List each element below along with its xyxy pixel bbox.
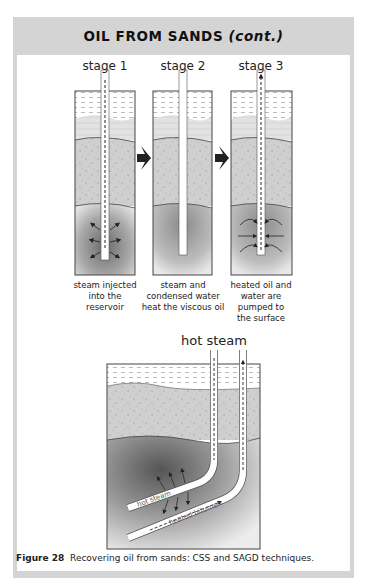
sagd-diagram: hot steam heated bitumen — [107, 350, 260, 549]
stage-arrow-1-2 — [137, 146, 151, 170]
stage-1-caption-line: steam injected — [73, 280, 136, 290]
stage-1-caption-line: into the — [89, 291, 122, 301]
stage-3-caption-line: heated oil and — [230, 280, 291, 290]
stage-1-column — [75, 70, 135, 275]
stage-arrow-2-3 — [215, 146, 229, 170]
oil-sands-diagram: stage 1 stage 2 stage 3 steam injected i… — [0, 0, 370, 587]
stage-2-caption-line: steam and — [160, 280, 205, 290]
stage-1-caption-line: reservoir — [86, 302, 124, 312]
figure-caption-text: Recovering oil from sands: CSS and SAGD … — [70, 553, 314, 563]
stage-2-caption-line: condensed water — [146, 291, 220, 301]
stage-2-column — [153, 70, 212, 275]
stage-3-caption-line: water are — [241, 291, 282, 301]
stage-3-label: stage 3 — [239, 59, 284, 73]
stage-3-caption-line: the surface — [237, 313, 285, 323]
stage-2-label: stage 2 — [161, 59, 206, 73]
stage-3-caption-line: pumped to — [238, 302, 284, 312]
hot-steam-label: hot steam — [181, 333, 247, 348]
figure-number: Figure 28 — [16, 553, 64, 563]
stage-3-column — [231, 70, 292, 275]
stage-1-label: stage 1 — [83, 59, 128, 73]
figure-caption: Figure 28 Recovering oil from sands: CSS… — [16, 553, 314, 563]
stage-2-caption-line: heat the viscous oil — [142, 302, 225, 312]
